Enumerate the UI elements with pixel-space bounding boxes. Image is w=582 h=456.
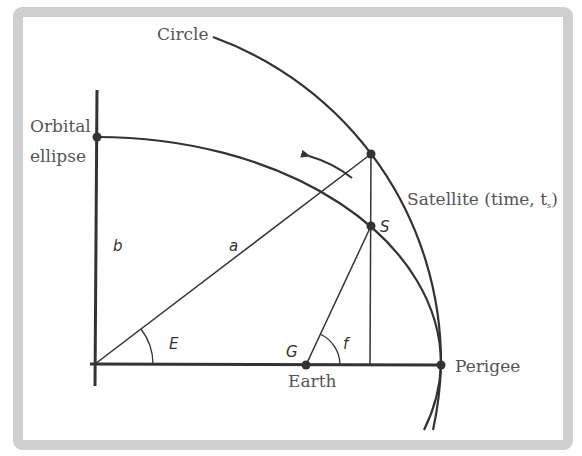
circle-label: Circle [157,24,209,44]
ellipse-label: ellipse [30,146,86,166]
angle-f-arc [320,334,340,365]
true-anomaly-f-label: f [343,335,351,353]
major-axis-line [90,364,441,365]
circle-point [367,150,376,159]
motion-direction-arrow [309,156,352,178]
semi-minor-b-label: b [113,237,123,255]
ellipse-top-point [93,133,102,142]
earth-point [302,361,311,370]
geocenter-g-label: G [286,343,298,361]
satellite-label: Satellite (time, ts) [407,189,558,210]
orbital-label: Orbital [30,116,91,136]
semi-major-line-a [95,154,371,364]
satellite-s-label: S [380,218,390,236]
projection-line [370,154,371,365]
satellite-point [367,222,376,231]
earth-label: Earth [288,371,337,391]
eccentric-anomaly-e-label: E [169,335,179,353]
orbit-diagram: Circle Orbital ellipse Satellite (time, … [0,0,582,456]
angle-e-arc [141,329,153,364]
perigee-label: Perigee [455,356,520,376]
radius-vector-line [306,226,371,365]
semi-major-a-label: a [229,237,238,255]
perigee-point [437,361,446,370]
